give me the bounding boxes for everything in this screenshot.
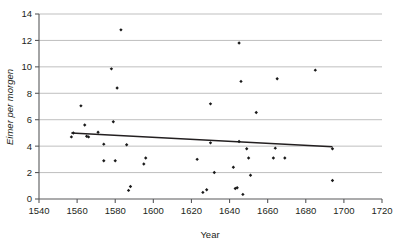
y-tick-label-8: 8 <box>27 88 32 99</box>
x-tick-label-1720: 1720 <box>371 205 392 216</box>
chart-canvas: 02468101214 1540156015801600162016401660… <box>0 0 402 243</box>
x-axis-title: Year <box>200 229 219 240</box>
y-tick-label-4: 4 <box>27 141 32 152</box>
y-tick-label-6: 6 <box>27 114 32 125</box>
x-tick-label-1620: 1620 <box>181 205 202 216</box>
x-tick-label-1580: 1580 <box>105 205 126 216</box>
x-tick-label-1700: 1700 <box>333 205 354 216</box>
x-tick-label-1680: 1680 <box>295 205 316 216</box>
x-tick-label-1560: 1560 <box>67 205 88 216</box>
x-tick-label-1640: 1640 <box>219 205 240 216</box>
scatter-chart: 02468101214 1540156015801600162016401660… <box>0 0 402 243</box>
y-tick-label-10: 10 <box>21 61 32 72</box>
y-tick-label-0: 0 <box>27 193 32 204</box>
y-tick-label-14: 14 <box>21 8 32 19</box>
x-tick-label-1540: 1540 <box>28 205 49 216</box>
y-tick-label-2: 2 <box>27 167 32 178</box>
x-tick-label-1600: 1600 <box>143 205 164 216</box>
y-tick-label-12: 12 <box>21 35 32 46</box>
x-tick-label-1660: 1660 <box>257 205 278 216</box>
y-axis-title: Eimer per morgen <box>4 69 15 145</box>
